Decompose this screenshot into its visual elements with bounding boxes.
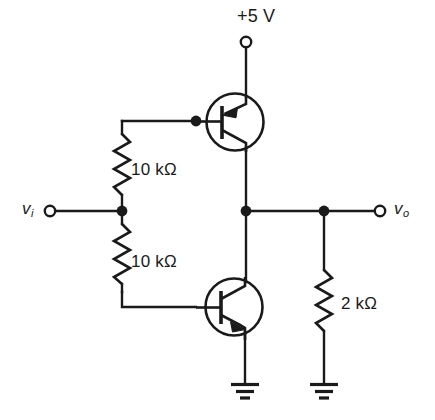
output-port-label: vo — [394, 200, 409, 217]
resistor-lower-divider-label: 10 kΩ — [131, 253, 177, 270]
circuit-figure: +5 V 10 kΩ 10 kΩ 2 kΩ vi vo — [0, 0, 435, 420]
node-load-tap — [319, 206, 330, 217]
input-port-symbol: v — [22, 199, 31, 218]
pnp-transistor[interactable] — [196, 94, 264, 153]
supply-label: +5 V — [237, 7, 275, 25]
node-input-divider — [117, 206, 128, 217]
resistor-upper-divider-zigzag — [114, 134, 130, 195]
node-output-center — [241, 206, 252, 217]
ground-load — [310, 385, 338, 399]
supply-terminal-circle[interactable] — [241, 37, 251, 47]
node-base-pnp — [191, 116, 202, 127]
output-port-subscript: o — [403, 207, 409, 219]
output-terminal-circle[interactable] — [375, 206, 385, 216]
schematic-drawing — [0, 0, 435, 420]
npn-transistor[interactable] — [196, 277, 263, 340]
resistor-load-label: 2 kΩ — [341, 295, 377, 312]
resistor-load-zigzag — [316, 270, 332, 331]
input-port-label: vi — [22, 200, 33, 217]
npn-base-wire — [122, 292, 196, 307]
resistor-lower-divider-zigzag — [114, 224, 130, 284]
output-port-symbol: v — [394, 199, 403, 218]
supply-branch — [241, 37, 251, 95]
input-terminal-circle[interactable] — [45, 206, 55, 216]
resistor-upper-divider-label: 10 kΩ — [131, 161, 177, 178]
ground-emitter — [231, 385, 259, 399]
